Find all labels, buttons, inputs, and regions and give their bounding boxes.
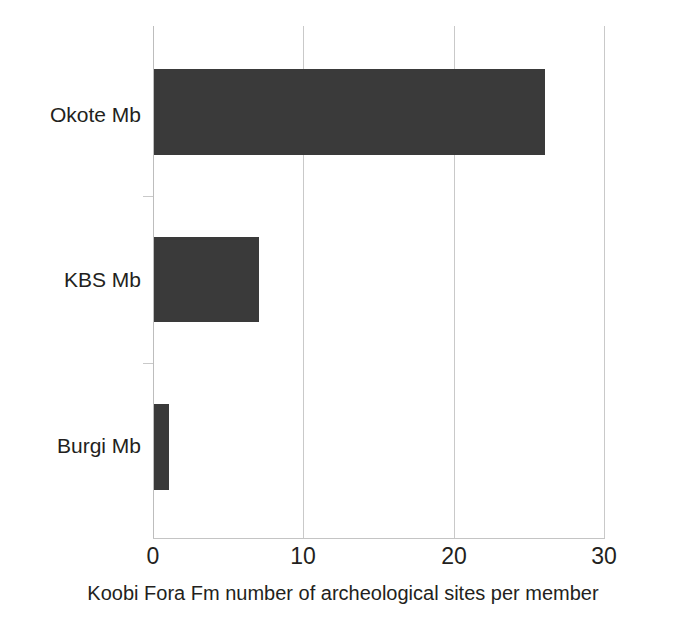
plot-area (153, 26, 604, 538)
category-axis-labels: Okote Mb KBS Mb Burgi Mb (0, 0, 141, 619)
gridline-30 (604, 26, 605, 538)
x-tick-label-0: 0 (118, 545, 188, 568)
x-tick-label-10: 10 (268, 545, 338, 568)
x-tick-label-20: 20 (419, 545, 489, 568)
bar-kbs-mb (154, 237, 259, 322)
x-axis-line (153, 538, 605, 539)
category-label-kbs: KBS Mb (1, 269, 141, 290)
chart-caption: Koobi Fora Fm number of archeological si… (0, 582, 686, 604)
category-label-okote: Okote Mb (1, 104, 141, 125)
bar-okote-mb (154, 69, 545, 155)
category-label-burgi: Burgi Mb (1, 435, 141, 456)
x-tick-label-30: 30 (569, 545, 639, 568)
bar-burgi-mb (154, 404, 169, 490)
bar-chart-figure: Okote Mb KBS Mb Burgi Mb 0 10 20 30 Koob… (0, 0, 686, 619)
